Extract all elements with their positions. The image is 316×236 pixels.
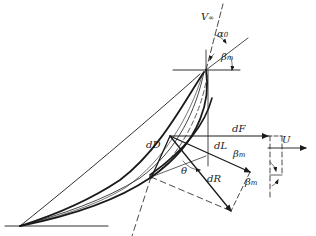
label-alpha0: α0 xyxy=(217,29,228,39)
beta-m-mid-arc xyxy=(270,162,276,171)
alpha0-subscript: 0 xyxy=(224,31,228,39)
label-beta-m-top: βm xyxy=(221,52,233,62)
blade-outer-chord xyxy=(20,74,200,226)
label-dD: dD xyxy=(146,140,160,150)
dashed-lower-left xyxy=(132,177,151,236)
blade-force-diagram xyxy=(0,0,316,236)
beta-m-mid-subscript: m xyxy=(239,151,246,159)
label-theta: θ xyxy=(181,166,187,176)
label-beta-m-mid: βm xyxy=(233,149,245,159)
label-beta-m-low: βm xyxy=(245,177,257,187)
beta-m-top-subscript: m xyxy=(227,54,234,62)
beta-m-low-subscript: m xyxy=(251,179,258,187)
label-U: U xyxy=(282,135,290,145)
v-infinity-subscript: ∞ xyxy=(208,14,214,22)
label-dL: dL xyxy=(214,141,227,151)
alpha0-arc-2 xyxy=(210,54,214,60)
alpha0-symbol: α xyxy=(217,28,224,39)
label-v-infinity: V∞ xyxy=(201,12,214,22)
label-dF: dF xyxy=(232,124,245,134)
label-dR: dR xyxy=(207,174,221,184)
beta-m-low-arc xyxy=(272,180,278,186)
